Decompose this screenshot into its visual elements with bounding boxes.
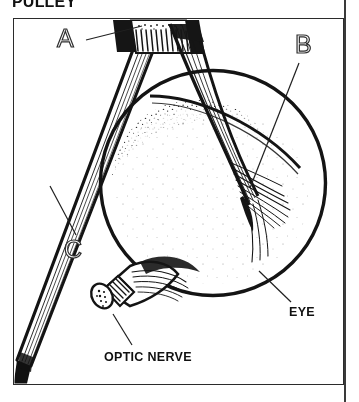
figure-page: PULLEY (0, 0, 359, 402)
page-edge-rule (344, 0, 346, 402)
callout-label-c: C (64, 237, 82, 262)
callout-label-a: A (57, 26, 74, 51)
label-eye: EYE (289, 305, 315, 319)
optic-nerve-stump (87, 257, 200, 313)
eye-anatomy-illustration (0, 0, 359, 402)
label-optic-nerve: OPTIC NERVE (104, 350, 192, 364)
leader-line-optic-nerve (113, 314, 132, 345)
callout-label-b: B (295, 32, 312, 57)
